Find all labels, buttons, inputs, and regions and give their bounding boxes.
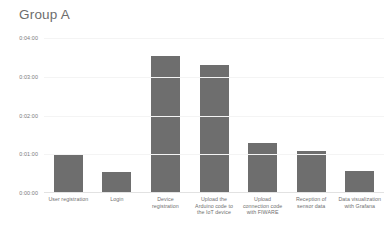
bar[interactable] [102, 172, 131, 193]
gridline [44, 38, 384, 39]
x-axis-labels: User registrationLoginDevice registratio… [44, 196, 384, 236]
y-axis-tick-label: 0:00:00 [19, 190, 38, 196]
x-axis-tick-label: Login [95, 196, 140, 203]
x-axis-tick-label: Upload connection code with FIWARE [240, 196, 285, 216]
x-axis-tick-label: Reception of sensor data [289, 196, 334, 209]
axis-baseline [44, 192, 384, 193]
y-axis-tick-label: 0:03:00 [19, 74, 38, 80]
x-axis-tick-label: Data visualization with Grafana [337, 196, 382, 209]
bar-chart-container: Group A User registrationLoginDevice reg… [0, 0, 390, 237]
bar[interactable] [297, 151, 326, 193]
chart-title: Group A [19, 7, 70, 22]
plot-area [44, 38, 384, 193]
bar[interactable] [345, 171, 374, 193]
gridline [44, 116, 384, 117]
y-axis-tick-label: 0:01:00 [19, 151, 38, 157]
y-axis-tick-label: 0:04:00 [19, 35, 38, 41]
gridline [44, 154, 384, 155]
x-axis-tick-label: Upload the Arduino code to the IoT devic… [192, 196, 237, 216]
x-axis-tick-label: Device registration [143, 196, 188, 209]
bar[interactable] [54, 155, 83, 193]
bar[interactable] [248, 143, 277, 193]
gridline [44, 77, 384, 78]
bar[interactable] [200, 65, 229, 193]
x-axis-tick-label: User registration [46, 196, 91, 203]
y-axis-tick-label: 0:02:00 [19, 113, 38, 119]
